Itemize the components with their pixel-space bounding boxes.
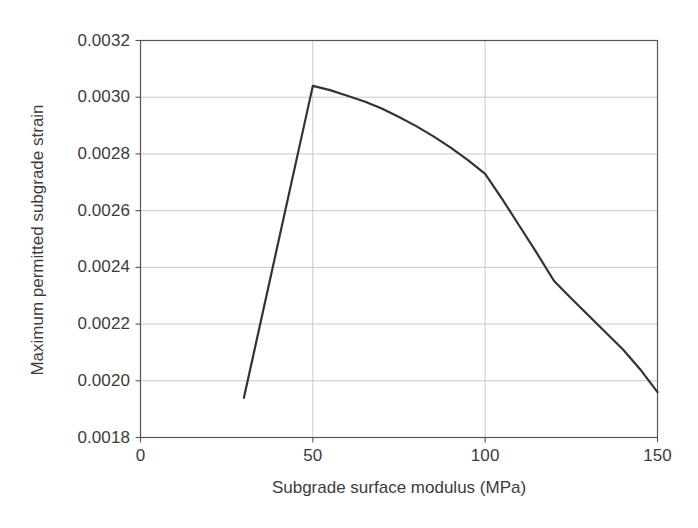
chart-figure: 0.00180.00200.00220.00240.00260.00280.00…	[0, 0, 698, 528]
vertical-gridlines	[313, 41, 485, 438]
x-tick-label: 100	[471, 446, 500, 466]
plot-frame	[141, 41, 658, 438]
data-series-line	[244, 86, 658, 398]
x-axis-title: Subgrade surface modulus (MPa)	[140, 478, 658, 498]
x-tick-label: 0	[136, 446, 146, 466]
axis-ticks	[136, 41, 658, 443]
x-tick-label: 150	[643, 446, 672, 466]
y-axis-title: Maximum permitted subgrade strain	[28, 40, 54, 440]
horizontal-gridlines	[141, 41, 658, 381]
x-tick-label: 50	[303, 446, 322, 466]
